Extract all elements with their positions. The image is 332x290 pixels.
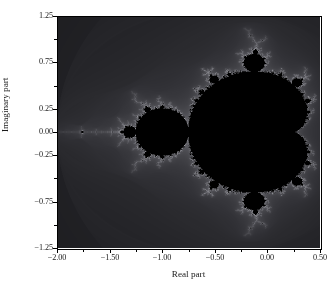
x-tick-label: −1.00 — [153, 253, 171, 262]
x-minor-tick — [189, 249, 190, 252]
x-minor-tick — [136, 249, 137, 252]
y-minor-tick — [54, 86, 57, 87]
y-tick-label: 0.75 — [39, 57, 53, 66]
y-tick — [53, 16, 57, 17]
y-axis-title: Imaginary part — [0, 78, 10, 132]
x-tick-label: 0.00 — [260, 253, 274, 262]
y-tick — [53, 202, 57, 203]
y-tick-label: −0.75 — [35, 197, 53, 206]
x-tick-label: −0.50 — [206, 253, 224, 262]
x-tick-label: −1.50 — [101, 253, 119, 262]
x-minor-tick — [241, 249, 242, 252]
plot-area — [57, 16, 320, 248]
y-minor-tick — [54, 225, 57, 226]
y-tick-label: −1.25 — [35, 243, 53, 252]
y-tick — [53, 132, 57, 133]
x-axis-title: Real part — [57, 269, 320, 279]
x-tick-label: −2.00 — [48, 253, 66, 262]
y-tick-label: 0.00 — [39, 127, 53, 136]
y-tick-label: 0.25 — [39, 104, 53, 113]
x-minor-tick — [294, 249, 295, 252]
y-minor-tick — [54, 178, 57, 179]
y-minor-tick — [54, 39, 57, 40]
mandelbrot-heatmap-canvas — [57, 16, 320, 248]
y-tick — [53, 109, 57, 110]
y-tick-label: 1.25 — [39, 11, 53, 20]
mandelbrot-figure: 1.250.750.250.00−0.25−0.75−1.25 −2.00−1.… — [0, 0, 332, 290]
x-tick-label: 0.50 — [313, 253, 327, 262]
y-tick — [53, 155, 57, 156]
y-tick — [53, 62, 57, 63]
x-minor-tick — [83, 249, 84, 252]
y-tick-label: −0.25 — [35, 150, 53, 159]
